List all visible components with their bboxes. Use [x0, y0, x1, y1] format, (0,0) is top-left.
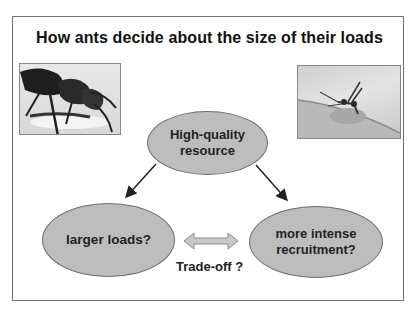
tradeoff-label: Trade-off ? [176, 259, 243, 274]
tradeoff-double-arrow-icon [184, 233, 238, 249]
node-label-line2: recruitment? [276, 242, 357, 258]
node-high-quality-resource: High-quality resource [147, 111, 268, 175]
arrow-to-recruitment [256, 165, 286, 199]
node-label-line2: resource [170, 143, 245, 159]
node-more-intense-recruitment: more intense recruitment? [249, 206, 383, 278]
node-larger-loads: larger loads? [42, 203, 175, 277]
node-label-line1: more intense [276, 226, 357, 242]
node-label: larger loads? [66, 232, 151, 248]
node-label-line1: High-quality [170, 127, 245, 143]
arrow-to-larger-loads [127, 164, 156, 196]
